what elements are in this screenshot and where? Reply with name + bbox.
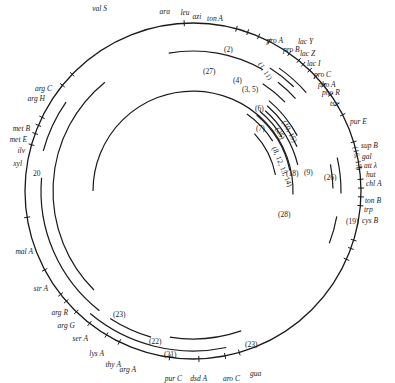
chromosome-circle — [25, 23, 361, 359]
gene-label: chl A — [366, 179, 382, 188]
segment-label: (3, 5) — [242, 85, 259, 94]
deletion-arc-arc-22 — [110, 318, 151, 337]
gene-label: dsd A — [190, 374, 207, 383]
deletion-arc-arc-1-11 — [279, 68, 306, 92]
gene-label: ilv — [18, 146, 26, 155]
segment-label: (28) — [278, 210, 291, 219]
gene-label: pur E — [349, 117, 367, 126]
gene-label: sup B — [361, 141, 378, 150]
gene-tick-mark — [224, 353, 225, 359]
segment-label: (6) — [255, 104, 264, 113]
gene-label: tsx — [330, 99, 339, 108]
segment-label: 20 — [33, 169, 41, 178]
segment-label: (22) — [149, 337, 162, 346]
segment-label-group: (2)(1, 11)(27)(4)(3, 5)(6)(7)(8, 12, 13,… — [33, 45, 364, 359]
gene-label: gua — [250, 369, 262, 378]
gene-label: lac Z — [300, 49, 316, 58]
gene-label: met B — [13, 124, 31, 133]
gene-label: pur C — [164, 374, 183, 383]
gene-label: str A — [34, 284, 49, 293]
segment-label: (7) — [256, 124, 265, 133]
gene-label: ton B — [365, 196, 381, 205]
gene-label: val S — [92, 4, 107, 13]
gene-label: arg C — [35, 84, 53, 93]
segment-label: (1, 11) — [256, 60, 274, 82]
segment-label: (19) — [346, 217, 359, 226]
gene-label: met E — [10, 135, 28, 144]
segment-label: (18) — [286, 169, 299, 178]
segment-label: (9) — [304, 168, 313, 177]
gene-tick-mark — [24, 217, 30, 218]
gene-label: gal — [362, 152, 372, 161]
gene-label: pho R — [321, 88, 340, 97]
gene-label: xyl — [12, 159, 22, 168]
genetic-map-diagram: val Saraleuaziton Apro Apro Blac Ylac Zl… — [0, 0, 395, 383]
gene-label: lac I — [307, 59, 321, 68]
gene-label: arg A — [120, 365, 137, 374]
gene-label: ser A — [73, 334, 89, 343]
gene-label: mal A — [15, 247, 33, 256]
gene-label: thy A — [106, 360, 122, 369]
segment-label: (4) — [233, 76, 242, 85]
deletion-arc-arc-3-5 — [278, 82, 296, 98]
segment-label: (23) — [113, 310, 126, 319]
segment-label: (27) — [203, 67, 216, 76]
gene-label: cys B — [362, 216, 378, 225]
deletion-arc-arc-19 — [329, 216, 336, 243]
arc-group — [41, 51, 341, 351]
gene-label: arg G — [58, 321, 76, 330]
gene-label: lys A — [89, 349, 104, 358]
gene-label: hut — [366, 170, 377, 179]
deletion-arc-arc-23-bottom — [170, 331, 241, 339]
deletion-arc-arc-4 — [263, 84, 285, 102]
gene-label: pro B — [282, 45, 300, 54]
gene-label: trp — [364, 205, 373, 214]
deletion-arc-arc-inner-left — [53, 82, 105, 290]
gene-tick-mark — [357, 205, 363, 206]
gene-label: ton A — [207, 14, 223, 23]
deletion-arc-arc-23-left — [41, 178, 99, 311]
segment-label: (26) — [324, 173, 337, 182]
gene-label: aro C — [223, 374, 241, 383]
gene-label: ara — [160, 7, 171, 16]
gene-label: arg R — [51, 308, 68, 317]
gene-label: azi — [193, 12, 202, 21]
deletion-arc-arc-27 — [169, 51, 263, 70]
gene-label-group: val Saraleuaziton Apro Apro Blac Ylac Zl… — [10, 4, 382, 383]
gene-label: lac Y — [298, 37, 314, 46]
segment-label: (23) — [245, 340, 258, 349]
segment-label: (21) — [164, 350, 177, 359]
gene-label: pro A — [266, 36, 284, 45]
gene-label: leu — [180, 8, 189, 17]
gene-label: arg H — [28, 94, 46, 103]
segment-label: (2) — [224, 45, 233, 54]
deletion-arc-arc-16-17 — [337, 158, 341, 194]
gene-label: pro C — [313, 70, 332, 79]
gene-label: att λ — [364, 161, 378, 170]
